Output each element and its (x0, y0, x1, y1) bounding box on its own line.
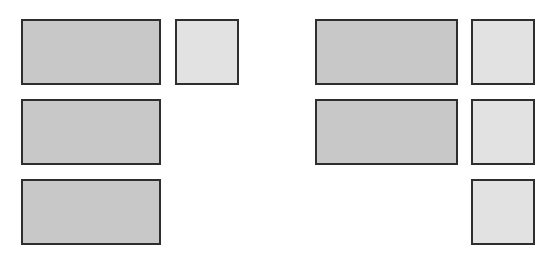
long-block (315, 19, 458, 85)
unit-block (471, 99, 535, 165)
right-group (0, 0, 554, 253)
long-block (315, 99, 458, 165)
unit-block (471, 19, 535, 85)
unit-block (471, 179, 535, 245)
